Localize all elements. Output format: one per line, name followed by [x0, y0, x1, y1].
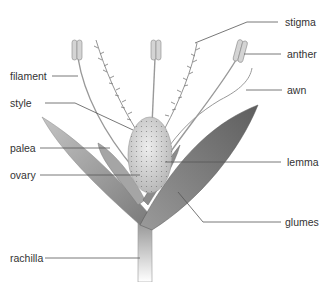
label-stigma: stigma: [285, 16, 316, 28]
label-glumes: glumes: [285, 216, 319, 228]
anther-right: [233, 39, 248, 63]
anther-center: [151, 40, 161, 60]
label-lemma: lemma: [287, 156, 319, 168]
label-anther: anther: [287, 48, 317, 60]
stigma-right: [165, 43, 200, 128]
label-ovary: ovary: [10, 169, 36, 181]
diagram-illustration: [0, 0, 331, 282]
filament-center: [152, 58, 155, 125]
label-rachilla: rachilla: [10, 252, 43, 264]
label-filament: filament: [10, 70, 47, 82]
anther-left: [72, 40, 82, 60]
label-palea: palea: [10, 142, 36, 154]
grass-flower-diagram: stigma anther awn filament style palea o…: [0, 0, 331, 282]
label-awn: awn: [287, 84, 306, 96]
label-style: style: [10, 97, 32, 109]
